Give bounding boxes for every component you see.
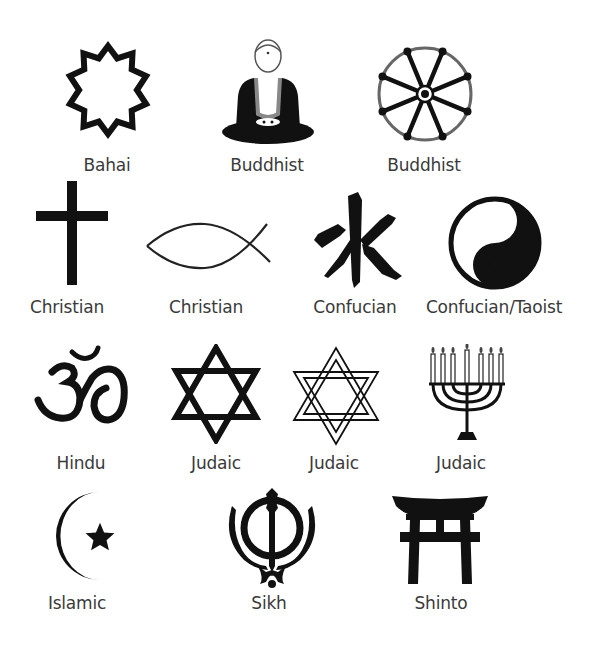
crescent-star-icon bbox=[42, 488, 126, 584]
symbol-label: Bahai bbox=[84, 155, 131, 175]
seated-buddha-icon bbox=[218, 36, 318, 146]
symbol-label: Shinto bbox=[415, 593, 468, 613]
latin-cross-icon bbox=[36, 181, 108, 285]
om-icon bbox=[34, 344, 130, 434]
symbol-label: Buddhist bbox=[387, 155, 460, 175]
symbol-label: Confucian/Taoist bbox=[426, 297, 562, 317]
symbol-label: Hindu bbox=[57, 453, 106, 473]
symbol-label: Christian bbox=[169, 297, 243, 317]
dharma-wheel-icon bbox=[373, 42, 477, 146]
symbol-label: Islamic bbox=[48, 593, 106, 613]
symbol-label: Judaic bbox=[309, 453, 359, 473]
yin-yang-icon bbox=[447, 195, 543, 291]
torii-gate-icon bbox=[392, 494, 488, 586]
ichthys-fish-icon bbox=[145, 222, 273, 270]
khanda-icon bbox=[222, 486, 322, 590]
symbol-label: Sikh bbox=[251, 593, 286, 613]
symbol-label: Buddhist bbox=[230, 155, 303, 175]
symbol-label: Confucian bbox=[313, 297, 396, 317]
menorah-icon bbox=[427, 344, 507, 442]
symbol-label: Christian bbox=[30, 297, 104, 317]
interlaced-star-of-david-icon bbox=[291, 344, 381, 448]
star-of-david-icon bbox=[171, 344, 261, 444]
nine-pointed-star-icon bbox=[58, 40, 158, 140]
symbol-label: Judaic bbox=[191, 453, 241, 473]
water-character-icon bbox=[310, 190, 406, 290]
symbol-label: Judaic bbox=[436, 453, 486, 473]
